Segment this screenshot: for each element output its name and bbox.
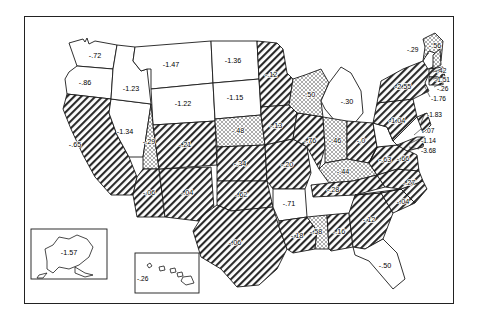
label-nc: -.27 <box>403 178 415 187</box>
alaska-inset: -1.57 <box>31 229 107 279</box>
label-az: -.06 <box>143 188 155 197</box>
label-oh: -.0 <box>357 136 365 145</box>
label-ga: -.12 <box>363 215 375 224</box>
label-ky: -.44 <box>337 167 349 176</box>
label-me: -.56 <box>429 41 441 50</box>
label-id: -1.23 <box>123 84 139 93</box>
label-or: -.86 <box>79 78 91 87</box>
label-sd: -1.15 <box>227 93 243 102</box>
label-ks: -.34 <box>234 159 246 168</box>
label-nj: -1.83 <box>427 111 442 118</box>
us-map-svg: -.72 -.86 -.65 -1.34 -1.23 -1.47 -1.22 -… <box>25 17 453 303</box>
map-frame: -.72 -.86 -.65 -1.34 -1.23 -1.47 -1.22 -… <box>24 16 454 304</box>
label-de: -.07 <box>423 127 435 134</box>
label-ca: -.65 <box>69 140 81 149</box>
label-vt: -.29 <box>407 46 419 53</box>
label-nd: -1.36 <box>225 56 241 65</box>
label-ri: -.26 <box>437 85 449 92</box>
label-mi: -.30 <box>341 97 353 106</box>
label-ut: -.29 <box>143 137 155 146</box>
label-hi: -.26 <box>137 275 149 282</box>
label-nm: -.04 <box>181 188 193 197</box>
label-ct: -1.76 <box>431 95 446 102</box>
label-co: -.21 <box>179 140 191 149</box>
label-mn: -.12 <box>265 70 277 79</box>
hawaii-inset: -.26 <box>135 253 199 293</box>
label-ne: -.48 <box>232 126 244 135</box>
label-va: -.66 <box>397 154 409 163</box>
label-ia: -.13 <box>270 121 282 130</box>
label-fl: -.50 <box>379 261 391 270</box>
label-wv: -.63 <box>379 155 391 164</box>
label-mo: -.20 <box>281 160 293 169</box>
label-ar: -.71 <box>283 199 295 208</box>
label-tx: -.06 <box>229 238 241 247</box>
label-md: -1.14 <box>421 137 436 144</box>
label-ak: -1.57 <box>61 248 77 257</box>
label-al: -.16 <box>333 227 345 236</box>
label-ny: -2.55 <box>395 82 411 91</box>
label-nv: -1.34 <box>117 127 133 136</box>
label-il: -.76 <box>304 136 316 145</box>
label-sc: -.04 <box>397 197 409 206</box>
map-figure: -.72 -.86 -.65 -1.34 -1.23 -1.47 -1.22 -… <box>0 0 478 320</box>
label-tn: -.28 <box>327 185 339 194</box>
label-wy: -1.22 <box>175 99 191 108</box>
label-mt: -1.47 <box>163 60 179 69</box>
label-ok: -.62 <box>235 190 247 199</box>
label-nh: -.42 <box>435 67 447 74</box>
label-dc: -3.68 <box>421 147 436 154</box>
label-pa: -1.04 <box>389 116 405 125</box>
label-in: -.46 <box>329 136 341 145</box>
label-wa: -.72 <box>89 51 101 60</box>
label-wi: -.50 <box>303 90 315 99</box>
label-ms: -.58 <box>310 227 322 236</box>
label-la: -.18 <box>291 231 303 240</box>
